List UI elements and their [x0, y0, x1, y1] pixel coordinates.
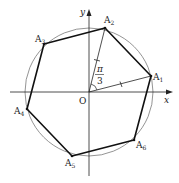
label-A3: A3 [34, 34, 46, 45]
label-A6: A6 [135, 140, 147, 151]
x-axis-label: x [164, 95, 169, 105]
label-A5: A5 [64, 158, 76, 169]
origin-label: O [79, 96, 86, 106]
label-A1: A1 [152, 72, 163, 83]
label-A4: A4 [13, 106, 25, 117]
hexagon-diagram: A1 A2 A3 A4 A5 A6 O x y π 3 [0, 0, 179, 183]
label-A2: A2 [103, 15, 115, 26]
x-axis-arrow-icon [166, 90, 173, 95]
y-axis-label: y [79, 7, 86, 17]
angle-label-numerator: π [96, 64, 104, 74]
angle-label-denominator: 3 [97, 76, 103, 86]
y-axis-arrow-icon [87, 9, 92, 16]
